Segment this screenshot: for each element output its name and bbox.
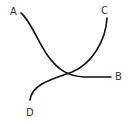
label-d: D (26, 107, 34, 118)
curve-c-to-d (30, 18, 107, 100)
label-b: B (115, 71, 122, 82)
label-c: C (101, 5, 108, 16)
crossing-curves-diagram: A B C D (0, 0, 130, 124)
curve-a-to-b (21, 13, 111, 77)
label-a: A (10, 6, 17, 17)
